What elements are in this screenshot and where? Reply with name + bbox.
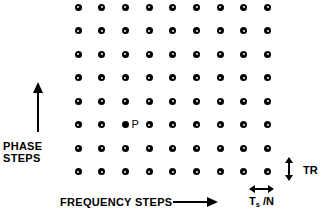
sampling-point-label-p: P	[131, 119, 138, 130]
highlighted-sampling-point	[122, 121, 129, 128]
sampling-point	[122, 4, 129, 11]
sampling-point	[193, 121, 200, 128]
phase-steps-label-line-2: STEPS	[3, 152, 42, 164]
sampling-point	[75, 98, 82, 105]
sampling-point	[264, 98, 271, 105]
sampling-point	[217, 51, 224, 58]
phase-steps-label-line-1: PHASE	[3, 140, 42, 152]
phase-steps-arrow-shaft	[37, 92, 39, 132]
sampling-point	[122, 98, 129, 105]
sampling-point	[122, 168, 129, 175]
sampling-point	[146, 27, 153, 34]
sampling-point-grid: P	[0, 0, 328, 219]
sampling-point	[264, 51, 271, 58]
figure-canvas: P PHASE STEPS FREQUENCY STEPS TR Ts /N	[0, 0, 328, 219]
tsn-label-tail: /N	[260, 195, 274, 207]
sampling-point	[98, 4, 105, 11]
sampling-point	[217, 98, 224, 105]
sampling-point	[169, 168, 176, 175]
sampling-point	[240, 27, 247, 34]
sampling-point	[98, 98, 105, 105]
sampling-point	[169, 145, 176, 152]
sampling-point	[146, 4, 153, 11]
sampling-point	[169, 4, 176, 11]
sampling-point	[98, 74, 105, 81]
phase-steps-label: PHASE STEPS	[3, 140, 42, 164]
sampling-point	[122, 74, 129, 81]
tr-label: TR	[303, 164, 318, 176]
sampling-point	[75, 4, 82, 11]
sampling-point	[264, 145, 271, 152]
sampling-point	[264, 74, 271, 81]
tsn-label: Ts /N	[249, 195, 274, 209]
sampling-point	[75, 74, 82, 81]
sampling-point	[146, 121, 153, 128]
sampling-point	[193, 27, 200, 34]
tr-arrow-shaft	[288, 162, 290, 176]
sampling-point	[122, 145, 129, 152]
sampling-point	[98, 145, 105, 152]
sampling-point	[264, 168, 271, 175]
sampling-point	[169, 51, 176, 58]
sampling-point	[264, 27, 271, 34]
sampling-point	[146, 168, 153, 175]
sampling-point	[217, 145, 224, 152]
sampling-point	[240, 4, 247, 11]
sampling-point	[264, 4, 271, 11]
sampling-point	[193, 98, 200, 105]
sampling-point	[240, 145, 247, 152]
sampling-point	[193, 51, 200, 58]
sampling-point	[146, 145, 153, 152]
sampling-point	[98, 27, 105, 34]
sampling-point	[169, 74, 176, 81]
tsn-arrow-shaft	[254, 188, 269, 190]
sampling-point	[75, 168, 82, 175]
sampling-point	[240, 74, 247, 81]
sampling-point	[240, 121, 247, 128]
sampling-point	[240, 51, 247, 58]
sampling-point	[122, 51, 129, 58]
sampling-point	[98, 121, 105, 128]
sampling-point	[240, 168, 247, 175]
sampling-point	[169, 121, 176, 128]
frequency-steps-arrow-shaft	[173, 201, 209, 203]
sampling-point	[217, 27, 224, 34]
sampling-point	[98, 51, 105, 58]
sampling-point	[264, 121, 271, 128]
sampling-point	[193, 145, 200, 152]
sampling-point	[146, 51, 153, 58]
sampling-point	[75, 51, 82, 58]
frequency-steps-arrow-head-icon	[207, 197, 218, 207]
sampling-point	[98, 168, 105, 175]
sampling-point	[217, 121, 224, 128]
sampling-point	[193, 74, 200, 81]
sampling-point	[240, 98, 247, 105]
sampling-point	[146, 98, 153, 105]
tsn-arrow-head-right-icon	[268, 185, 274, 193]
sampling-point	[169, 27, 176, 34]
sampling-point	[169, 98, 176, 105]
frequency-steps-label: FREQUENCY STEPS	[60, 196, 173, 208]
tr-arrow-head-down-icon	[285, 175, 293, 181]
tsn-label-sub: s	[256, 200, 260, 209]
sampling-point	[75, 27, 82, 34]
tsn-label-main: T	[249, 195, 256, 207]
sampling-point	[217, 4, 224, 11]
sampling-point	[193, 168, 200, 175]
sampling-point	[193, 4, 200, 11]
sampling-point	[146, 74, 153, 81]
sampling-point	[217, 74, 224, 81]
sampling-point	[217, 168, 224, 175]
sampling-point	[122, 27, 129, 34]
sampling-point	[75, 121, 82, 128]
sampling-point	[75, 145, 82, 152]
